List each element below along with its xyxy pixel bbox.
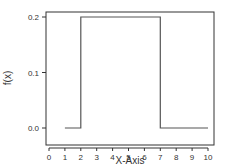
step-function-line — [65, 17, 208, 128]
y-tick-label: 0.0 — [28, 124, 40, 133]
x-tick-label: 2 — [79, 153, 84, 162]
y-axis: 0.00.10.2 — [28, 13, 46, 133]
uniform-distribution-chart: 0.00.10.2 012345678910 X-Axis f(x) — [0, 0, 226, 168]
x-tick-label: 0 — [47, 153, 52, 162]
x-tick-label: 9 — [190, 153, 195, 162]
x-axis-title: X-Axis — [116, 155, 145, 166]
plot-box — [46, 12, 214, 145]
x-tick-label: 3 — [94, 153, 99, 162]
x-tick-label: 7 — [158, 153, 163, 162]
x-tick-label: 8 — [174, 153, 179, 162]
x-tick-label: 10 — [204, 153, 213, 162]
y-axis-title: f(x) — [2, 71, 13, 85]
x-tick-label: 1 — [63, 153, 68, 162]
y-tick-label: 0.1 — [28, 69, 40, 78]
y-tick-label: 0.2 — [28, 13, 40, 22]
